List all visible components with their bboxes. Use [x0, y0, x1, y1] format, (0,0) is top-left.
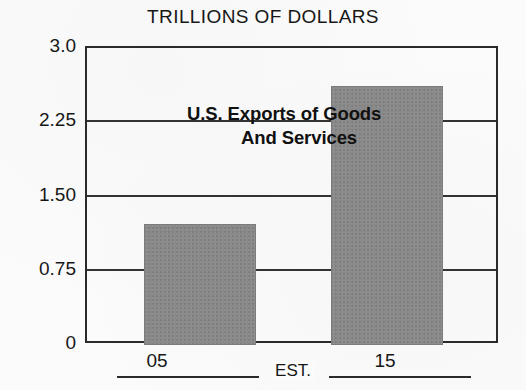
bar-05	[144, 224, 256, 345]
y-tick-label-1-50: 1.50	[39, 184, 76, 206]
y-axis: 3.0 2.25 1.50 0.75 0	[0, 0, 85, 390]
series-caption: U.S. Exports of Goods And Services	[187, 102, 437, 151]
series-caption-line-1: U.S. Exports of Goods	[187, 102, 437, 126]
plot-area: U.S. Exports of Goods And Services	[85, 46, 498, 343]
estimate-rule-left	[117, 376, 259, 378]
y-tick-label-2-25: 2.25	[39, 109, 76, 131]
estimate-rule-right	[329, 376, 471, 378]
y-tick-label-0: 0	[65, 332, 76, 354]
y-tick-label-0-75: 0.75	[39, 258, 76, 280]
series-caption-line-2: And Services	[187, 126, 437, 150]
x-tick-label-05: 05	[146, 350, 167, 372]
chart-page: TRILLIONS OF DOLLARS 3.0 2.25 1.50 0.75 …	[0, 0, 526, 390]
x-axis: 05 15 EST.	[85, 343, 498, 390]
x-tick-label-15: 15	[374, 350, 395, 372]
y-tick-label-3: 3.0	[50, 35, 76, 57]
estimate-label: EST.	[271, 361, 315, 381]
